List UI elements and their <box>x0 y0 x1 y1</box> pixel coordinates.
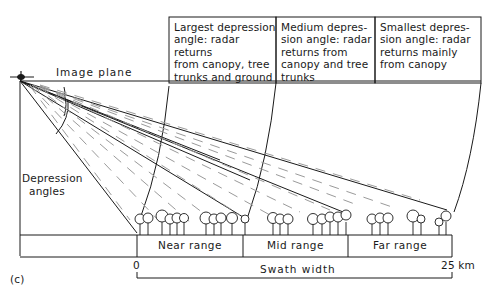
depression-label-line2: angles <box>29 185 65 198</box>
ray-far-edge <box>20 81 447 210</box>
callout-medium-line: canopy and tree <box>281 58 375 70</box>
swath-end-label: 25 km <box>441 259 475 272</box>
callout-smallest-line: Smallest depres- <box>380 21 480 33</box>
mid-range-label: Mid range <box>243 239 348 251</box>
image-plane-label: Image plane <box>56 66 132 79</box>
callout-medium: Medium depres- sion angle: radar returns… <box>281 21 375 83</box>
tree-cluster-far <box>367 210 451 235</box>
leader-smallest <box>454 83 481 212</box>
callout-largest-line: angle: radar returns <box>174 33 276 58</box>
depression-label-line1: Depression <box>22 172 83 185</box>
swath-width-label: Swath width <box>260 263 336 276</box>
callout-smallest-line: returns mainly <box>380 46 480 58</box>
callout-largest-line: Largest depression <box>174 21 276 33</box>
callout-smallest-line: from canopy <box>380 58 480 70</box>
callout-smallest: Smallest depres- sion angle: radar retur… <box>380 21 480 71</box>
callout-largest-line: trunks and ground <box>174 71 276 83</box>
radar-pulse-dashes <box>30 85 420 222</box>
callout-largest: Largest depression angle: radar returns … <box>174 21 276 83</box>
tree-cluster-mid <box>241 210 351 235</box>
tree-cluster-near <box>135 210 238 235</box>
callout-largest-line: from canopy, tree <box>174 58 276 70</box>
radar-depression-angle-diagram: Largest depression angle: radar returns … <box>0 0 490 291</box>
panel-label: (c) <box>10 273 25 286</box>
callout-medium-line: sion angle: radar <box>281 33 375 45</box>
ray-a <box>20 81 250 180</box>
callout-medium-line: Medium depres- <box>281 21 375 33</box>
callout-medium-line: returns from <box>281 46 375 58</box>
near-range-label: Near range <box>137 239 243 251</box>
callout-smallest-line: sion angle: radar <box>380 33 480 45</box>
aircraft-icon <box>10 71 34 81</box>
far-range-label: Far range <box>348 239 452 251</box>
swath-start-label: 0 <box>133 259 140 272</box>
forest-trees <box>135 210 451 235</box>
callout-medium-line: trunks <box>281 71 375 83</box>
